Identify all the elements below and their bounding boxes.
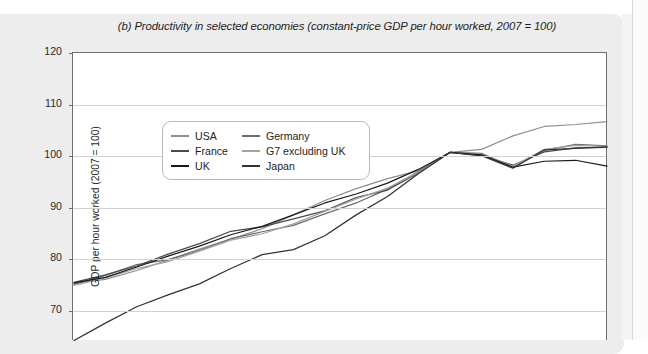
- plot-area: GDP per hour worked (2007 = 100) USA: [72, 52, 607, 340]
- legend-item-usa: USA: [171, 128, 242, 143]
- legend-swatch-japan: [242, 165, 260, 167]
- y-tick-label-70: 70: [32, 303, 62, 315]
- gridline-80: [73, 259, 606, 260]
- figure-title: (b) Productivity in selected economies (…: [72, 20, 602, 32]
- legend-swatch-usa: [171, 135, 189, 137]
- y-tick-label-100: 100: [32, 148, 62, 160]
- legend-label-france: France: [195, 145, 228, 157]
- legend-item-france: France: [171, 143, 242, 158]
- legend-swatch-uk: [171, 165, 189, 167]
- legend-label-g7-excluding-uk: G7 excluding UK: [266, 145, 346, 157]
- legend-item-germany: Germany: [242, 128, 360, 143]
- legend-label-uk: UK: [195, 160, 210, 172]
- series-lines: [73, 53, 608, 341]
- legend-swatch-france: [171, 150, 189, 152]
- legend-swatch-germany: [242, 135, 260, 137]
- gridline-70: [73, 311, 606, 312]
- y-axis-title: GDP per hour worked (2007 = 100): [90, 87, 101, 327]
- legend-label-japan: Japan: [266, 160, 295, 172]
- legend-swatch-g7-excluding-uk: [242, 150, 260, 152]
- gridline-110: [73, 105, 606, 106]
- legend-item-uk: UK: [171, 158, 242, 173]
- legend-item-japan: Japan: [242, 158, 360, 173]
- y-axis-tick-labels: 120 110 100 90 80 70: [32, 52, 64, 340]
- chart-legend: USA Germany France: [162, 121, 370, 180]
- legend-label-germany: Germany: [266, 130, 310, 142]
- y-tick-mark-120: [69, 53, 73, 54]
- page-right-margin: [633, 0, 648, 340]
- y-tick-label-90: 90: [32, 200, 62, 212]
- y-tick-label-120: 120: [32, 45, 62, 57]
- gridline-90: [73, 208, 606, 209]
- legend-label-usa: USA: [195, 130, 217, 142]
- legend-item-g7-excluding-uk: G7 excluding UK: [242, 143, 360, 158]
- y-tick-label-80: 80: [32, 251, 62, 263]
- y-tick-label-110: 110: [32, 97, 62, 109]
